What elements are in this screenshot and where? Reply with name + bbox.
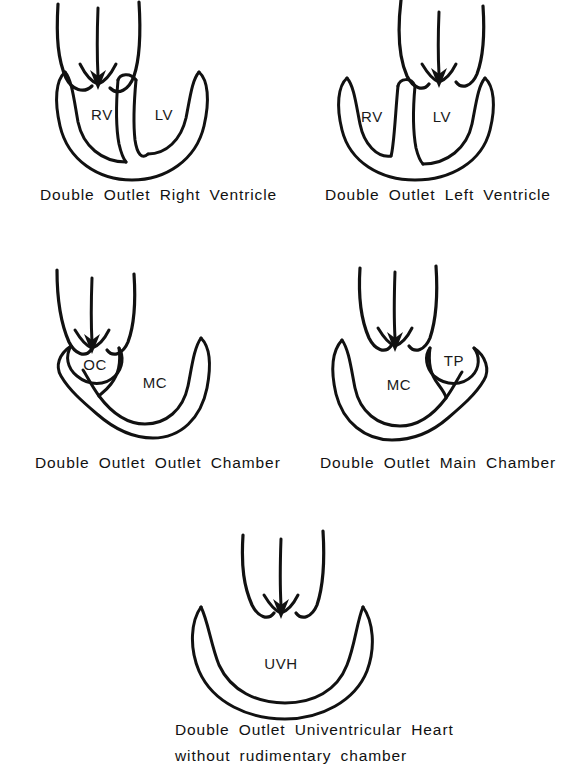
panel-double-outlet-main-chamber: MC TP Double Outlet Main Chamber <box>320 262 545 452</box>
great-vessel-right <box>107 274 135 354</box>
heart-diagram-main-chamber: MC TP <box>320 262 545 452</box>
heart-diagram-outlet-chamber: OC MC <box>35 262 255 452</box>
flow-arrow-shaft <box>280 539 281 605</box>
chamber-label-mc: MC <box>143 374 168 391</box>
panel-double-outlet-outlet-chamber: OC MC Double Outlet Outlet Chamber <box>35 262 255 452</box>
great-vessel-right <box>409 266 437 350</box>
caption-uvh-line2: without rudimentary chamber <box>175 747 395 764</box>
septum-right-face <box>134 80 148 156</box>
chamber-label-rv: RV <box>91 106 113 123</box>
caption-dolv: Double Outlet Left Ventricle <box>325 186 540 204</box>
septum-left-face <box>391 86 398 156</box>
great-vessel-right <box>456 6 484 86</box>
septum-right-face <box>414 86 423 164</box>
heart-diagram-uvh: UVH <box>175 525 395 710</box>
chamber-label-mc: MC <box>387 376 412 393</box>
panel-double-outlet-univentricular-heart: UVH Double Outlet Univentricular Heart w… <box>175 525 395 764</box>
panel-double-outlet-right-ventricle: RV LV Double Outlet Right Ventricle <box>40 0 255 185</box>
caption-dorv: Double Outlet Right Ventricle <box>40 186 255 204</box>
panel-double-outlet-left-ventricle: RV LV Double Outlet Left Ventricle <box>325 0 540 185</box>
figure-canvas: RV LV Double Outlet Right Ventricle RV L… <box>0 0 570 764</box>
caption-uvh-line1: Double Outlet Univentricular Heart <box>175 721 395 739</box>
flow-arrow-shaft <box>438 12 439 74</box>
great-vessel-right <box>296 531 324 617</box>
caption-main-chamber: Double Outlet Main Chamber <box>320 454 545 472</box>
flow-arrow-shaft <box>394 272 395 338</box>
great-vessel-left <box>399 0 429 88</box>
great-vessel-left <box>57 270 91 354</box>
heart-diagram-dorv: RV LV <box>40 0 255 185</box>
flow-arrow-shaft <box>97 8 98 76</box>
chamber-label-tp: TP <box>444 352 464 369</box>
chamber-label-rv: RV <box>361 108 383 125</box>
heart-diagram-dolv: RV LV <box>325 0 540 185</box>
chamber-label-lv: LV <box>155 106 173 123</box>
chamber-label-lv: LV <box>433 108 451 125</box>
flow-arrow-shaft <box>91 278 92 342</box>
chamber-label-oc: OC <box>83 356 107 373</box>
chamber-label-uvh: UVH <box>264 655 297 672</box>
caption-outlet-chamber: Double Outlet Outlet Chamber <box>35 454 255 472</box>
